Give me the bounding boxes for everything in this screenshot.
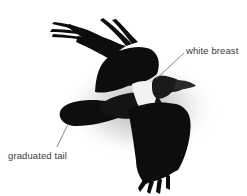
label-graduated-tail: graduated tail bbox=[8, 151, 67, 161]
raven-illustration bbox=[0, 0, 247, 196]
leader-line-graduated-tail bbox=[57, 124, 68, 147]
label-white-breast: white breast bbox=[186, 46, 238, 56]
annotated-bird-figure: white breast graduated tail bbox=[0, 0, 247, 196]
lower-wing bbox=[128, 102, 191, 194]
